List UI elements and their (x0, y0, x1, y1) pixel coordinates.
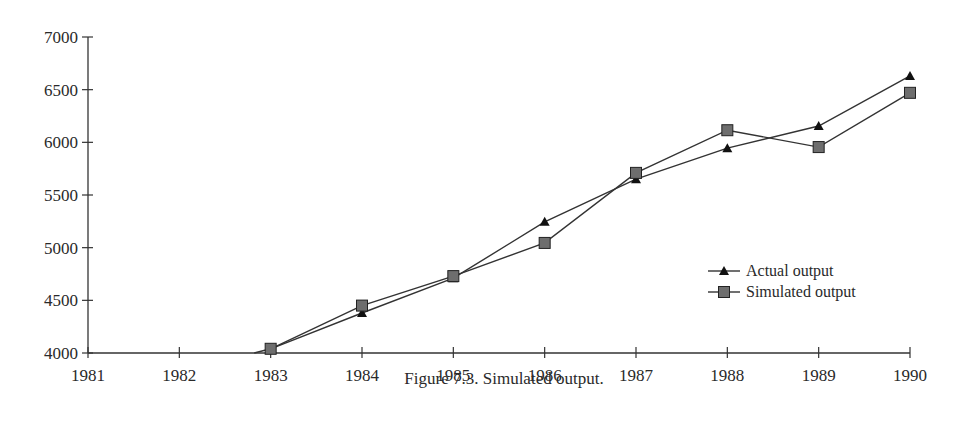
square-marker (265, 343, 276, 354)
square-marker (905, 87, 916, 98)
legend-label: Actual output (746, 262, 834, 280)
legend-item: Actual output (708, 262, 834, 280)
square-marker (448, 271, 459, 282)
triangle-marker (905, 71, 915, 80)
y-tick-label: 5000 (44, 239, 78, 258)
chart-axes: 4000450050005500600065007000198119821983… (44, 28, 927, 385)
y-tick-label: 4500 (44, 291, 78, 310)
y-tick-label: 4000 (44, 344, 78, 363)
y-tick-label: 6500 (44, 81, 78, 100)
triangle-marker (540, 217, 550, 226)
square-marker (357, 300, 368, 311)
square-marker (813, 142, 824, 153)
legend-label: Simulated output (746, 283, 856, 301)
square-marker (719, 287, 730, 298)
square-marker (631, 167, 642, 178)
square-marker (539, 237, 550, 248)
chart-series (254, 71, 915, 354)
y-tick-label: 5500 (44, 186, 78, 205)
legend-item: Simulated output (708, 283, 856, 301)
y-tick-label: 7000 (44, 28, 78, 47)
square-marker (722, 125, 733, 136)
chart-legend: Actual outputSimulated output (708, 262, 856, 301)
y-tick-label: 6000 (44, 133, 78, 152)
figure-caption: Figure 7.3. Simulated output. (0, 369, 956, 389)
triangle-marker (814, 121, 824, 130)
